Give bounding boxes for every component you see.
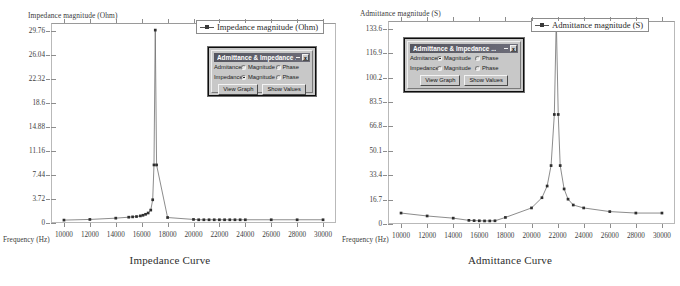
data-point-marker: [244, 218, 247, 221]
x-tick-mark: [168, 223, 169, 227]
impedance-magnitude-option[interactable]: Magnitude: [241, 74, 276, 80]
chart-impedance: Impedance magnitude (Ohm) Impedance magn…: [0, 0, 340, 248]
x-tick-mark-top: [142, 19, 143, 23]
impedance-magnitude-label: Magnitude: [444, 65, 471, 71]
data-point-marker: [541, 196, 544, 199]
view-graph-button[interactable]: View Graph: [420, 75, 460, 86]
chart-admittance: Admittance magnitude (S) Admittance magn…: [340, 0, 680, 248]
data-point-marker: [530, 207, 533, 210]
dialog-row-admitance: Admitance: Magnitude Phase: [214, 62, 310, 72]
y-tick-mark: [388, 53, 393, 54]
dialog-row-impedance: Impedance: Magnitude Phase: [214, 72, 310, 82]
y-tick-mark-outer: [46, 151, 50, 152]
data-point-marker: [151, 198, 154, 201]
admitance-magnitude-label: Magnitude: [248, 64, 275, 70]
impedance-label: Impedance:: [410, 65, 437, 71]
y-tick-label: 18.6: [5, 99, 45, 107]
admitance-magnitude-label: Magnitude: [444, 55, 471, 61]
close-icon[interactable]: x: [302, 54, 309, 61]
y-tick-mark-outer: [46, 103, 50, 104]
x-tick-label: 18000: [496, 232, 514, 240]
x-tick-mark: [479, 224, 480, 228]
data-point-marker: [127, 216, 130, 219]
y-tick-mark: [51, 151, 56, 152]
x-tick-mark-top: [532, 17, 533, 21]
minimize-icon[interactable]: [504, 48, 508, 49]
data-point-marker: [488, 220, 491, 223]
data-point-marker: [478, 219, 481, 222]
y-tick-mark-outer: [46, 223, 50, 224]
dialog-title: Admittance & Impedance ...: [217, 53, 296, 62]
impedance-magnitude-option[interactable]: Magnitude: [437, 65, 475, 71]
admitance-phase-option[interactable]: Phase: [276, 64, 311, 70]
x-tick-mark: [636, 224, 637, 228]
y-tick-mark-outer: [383, 175, 387, 176]
data-point-marker: [559, 164, 562, 167]
admitance-magnitude-option[interactable]: Magnitude: [437, 55, 475, 61]
legend-impedance: Impedance magnitude (Ohm): [196, 20, 324, 34]
admitance-phase-label: Phase: [283, 64, 299, 70]
data-point-marker: [483, 220, 486, 223]
admitance-label: Admitance:: [214, 64, 241, 70]
radio-icon[interactable]: [241, 75, 246, 80]
impedance-curve-series: [0, 0, 340, 248]
impedance-phase-option[interactable]: Phase: [276, 74, 311, 80]
admitance-phase-option[interactable]: Phase: [475, 55, 513, 61]
x-tick-mark: [427, 224, 428, 228]
data-point-marker: [144, 213, 147, 216]
x-tick-label: 24000: [236, 231, 254, 239]
x-tick-mark: [323, 223, 324, 227]
radio-icon[interactable]: [241, 65, 246, 70]
minimize-icon[interactable]: [296, 57, 300, 58]
admitance-magnitude-option[interactable]: Magnitude: [241, 64, 276, 70]
data-point-marker: [572, 204, 575, 207]
dialog-inner: Admittance & Impedance ... x Admitance: …: [407, 41, 521, 89]
x-tick-label: 22000: [549, 232, 567, 240]
admittance-impedance-dialog-right[interactable]: Admittance & Impedance ... x Admitance: …: [404, 38, 524, 92]
radio-icon[interactable]: [276, 75, 281, 80]
x-tick-mark-top: [168, 19, 169, 23]
radio-icon[interactable]: [437, 66, 442, 71]
show-values-button[interactable]: Show Values: [262, 84, 305, 95]
y-tick-mark-outer: [46, 127, 50, 128]
y-tick-mark-outer: [383, 53, 387, 54]
y-tick-label: 7.44: [5, 171, 45, 179]
radio-icon[interactable]: [475, 56, 480, 61]
x-tick-label: 28000: [288, 231, 306, 239]
x-tick-mark-top: [271, 19, 272, 23]
y-tick-label: 100.2: [342, 74, 382, 82]
radio-icon[interactable]: [475, 66, 480, 71]
y-tick-mark-outer: [383, 78, 387, 79]
y-tick-mark: [51, 55, 56, 56]
impedance-phase-option[interactable]: Phase: [475, 65, 513, 71]
x-tick-label: 18000: [159, 231, 177, 239]
view-graph-button[interactable]: View Graph: [218, 84, 258, 95]
y-tick-mark: [51, 199, 56, 200]
panel-admittance: Admittance magnitude (S) Admittance magn…: [340, 0, 680, 286]
x-tick-label: 14000: [107, 231, 125, 239]
data-point-marker: [322, 218, 325, 221]
y-tick-mark-outer: [383, 126, 387, 127]
x-tick-label: 10000: [55, 231, 73, 239]
x-tick-mark-top: [558, 17, 559, 21]
show-values-button[interactable]: Show Values: [464, 75, 507, 86]
radio-icon[interactable]: [437, 56, 442, 61]
data-point-marker: [550, 164, 553, 167]
data-point-marker: [208, 218, 211, 221]
y-tick-mark: [388, 200, 393, 201]
y-tick-label: 26.04: [5, 51, 45, 59]
dialog-titlebar[interactable]: Admittance & Impedance ... x: [410, 44, 518, 53]
close-icon[interactable]: x: [510, 45, 517, 52]
y-tick-mark-outer: [46, 199, 50, 200]
data-point-marker: [203, 218, 206, 221]
dialog-window-buttons: x: [504, 45, 517, 52]
data-point-marker: [504, 216, 507, 219]
y-tick-mark: [388, 175, 393, 176]
x-tick-mark-top: [116, 19, 117, 23]
dialog-titlebar[interactable]: Admittance & Impedance ... x: [214, 53, 310, 62]
x-tick-mark: [453, 224, 454, 228]
radio-icon[interactable]: [276, 65, 281, 70]
admittance-impedance-dialog-left[interactable]: Admittance & Impedance ... x Admitance: …: [208, 47, 316, 96]
data-point-marker: [473, 219, 476, 222]
y-tick-label: 66.8: [342, 122, 382, 130]
